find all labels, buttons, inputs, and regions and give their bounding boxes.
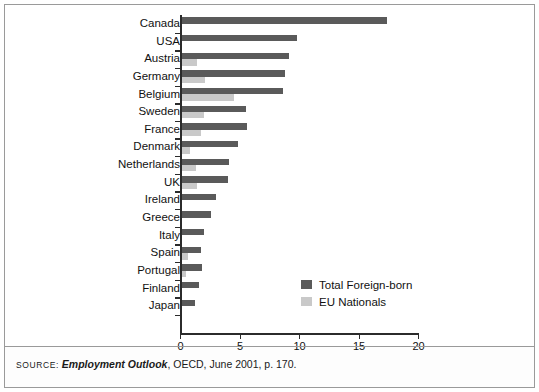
source-caption: Source: Employment Outlook, OECD, June 2…	[16, 356, 516, 374]
x-axis-tick	[180, 334, 181, 339]
source-label: Source:	[16, 360, 59, 370]
chart-legend: Total Foreign-bornEU Nationals	[301, 277, 471, 311]
x-axis-tick	[359, 334, 360, 339]
x-axis-tick	[418, 334, 419, 339]
bar-chart: CanadaUSAAustriaGermanyBelgiumSwedenFran…	[5, 5, 534, 346]
source-title: Employment Outlook	[62, 358, 168, 370]
x-axis-tick	[240, 334, 241, 339]
legend-label: Total Foreign-born	[319, 279, 412, 291]
legend-label: EU Nationals	[319, 296, 386, 308]
x-axis-tick	[299, 334, 300, 339]
source-divider	[5, 346, 534, 347]
legend-item: EU Nationals	[301, 294, 471, 309]
legend-swatch-icon	[301, 280, 312, 289]
figure-container: CanadaUSAAustriaGermanyBelgiumSwedenFran…	[0, 0, 539, 392]
plot-area: CanadaUSAAustriaGermanyBelgiumSwedenFran…	[5, 5, 534, 346]
legend-item: Total Foreign-born	[301, 277, 471, 292]
source-rest: , OECD, June 2001, p. 170.	[167, 358, 296, 370]
legend-swatch-icon	[301, 297, 312, 306]
